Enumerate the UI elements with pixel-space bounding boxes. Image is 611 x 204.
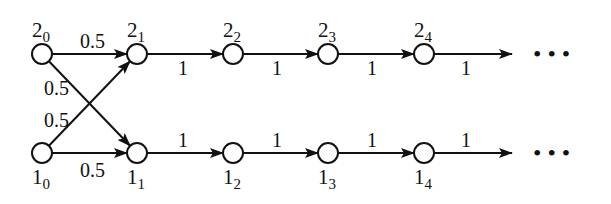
labels: 0.50.50.50.51111111120212223241011121314 [32, 18, 471, 192]
node-label-2_2: 22 [223, 18, 241, 45]
edge-weight-label: 1 [272, 129, 282, 151]
edge-weight-label: 1 [272, 57, 282, 79]
flow-network-diagram: 0.50.50.50.51111111120212223241011121314… [0, 0, 611, 204]
node-label-1_1: 11 [127, 165, 145, 192]
node-label-1_4: 14 [414, 165, 433, 192]
node-circle-1_4 [414, 143, 434, 163]
edge-weight-label: 1 [178, 57, 188, 79]
node-label-2_0: 20 [32, 18, 50, 45]
continuation-top: • • • [533, 41, 570, 67]
edge-weight-label: 0.5 [80, 30, 105, 52]
node-label-1_2: 12 [223, 165, 241, 192]
edge-weight-label: 1 [367, 129, 377, 151]
node-circle-2_3 [318, 44, 338, 64]
edge-weight-label: 1 [461, 57, 471, 79]
ellipsis-top: • • • [533, 41, 570, 67]
edge-weight-label: 1 [461, 129, 471, 151]
edge-weight-label: 1 [367, 57, 377, 79]
edge-weight-label: 0.5 [44, 109, 69, 131]
node-circle-2_4 [414, 44, 434, 64]
node-circle-1_0 [32, 143, 52, 163]
node-label-1_0: 10 [32, 165, 50, 192]
edge-weight-label: 1 [178, 129, 188, 151]
continuation-bottom: • • • [533, 140, 570, 166]
node-label-2_3: 23 [318, 18, 336, 45]
ellipsis-bottom: • • • [533, 140, 570, 166]
node-circle-2_2 [223, 44, 243, 64]
node-circle-1_3 [318, 143, 338, 163]
node-circle-1_1 [127, 143, 147, 163]
node-label-2_1: 21 [127, 18, 145, 45]
edge-weight-label: 0.5 [44, 77, 69, 99]
node-label-2_4: 24 [414, 18, 433, 45]
node-circle-2_0 [32, 44, 52, 64]
node-circle-2_1 [127, 44, 147, 64]
node-label-1_3: 13 [318, 165, 336, 192]
edge-weight-label: 0.5 [80, 159, 105, 181]
node-circle-1_2 [223, 143, 243, 163]
